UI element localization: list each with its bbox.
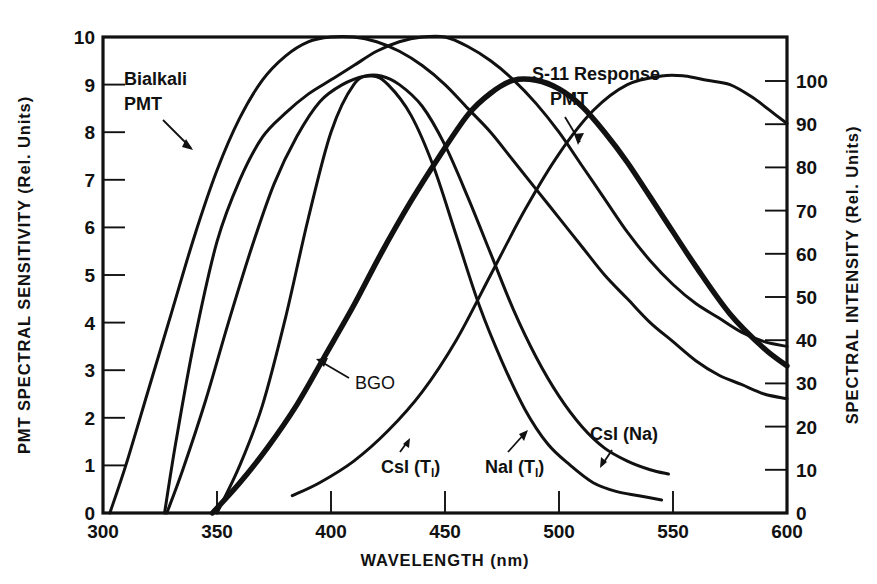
y-right-tick-label: 20 xyxy=(796,417,817,438)
x-tick-label: 550 xyxy=(657,521,689,542)
y-left-axis-title: PMT SPECTRAL SENSITIVITY (Rel. Units) xyxy=(15,96,33,454)
y-right-ticks xyxy=(765,81,787,513)
annotation-s11-pmt: S-11 Response PMT xyxy=(532,64,660,145)
annotation-s11-label-line2: PMT xyxy=(550,89,588,109)
x-tick-label: 600 xyxy=(771,521,803,542)
y-left-tick-label: 4 xyxy=(84,313,95,334)
annotation-bialkali-label-line1: Bialkali xyxy=(124,69,187,89)
annotation-csi-tl: CsI (Tl) xyxy=(381,438,440,480)
y-right-tick-label: 90 xyxy=(796,114,817,135)
y-left-tick-label: 7 xyxy=(84,170,95,191)
curves-group xyxy=(110,36,787,513)
y-left-tick-labels: 10 9 8 7 6 5 4 3 2 1 0 xyxy=(74,27,96,524)
annotation-s11-label-line1: S-11 Response xyxy=(532,64,660,84)
y-left-tick-label: 1 xyxy=(84,455,95,476)
curve-nai-tl xyxy=(217,76,662,513)
curve-csi-na xyxy=(167,75,669,513)
y-left-tick-label: 9 xyxy=(84,75,95,96)
annotation-csi-tl-label: CsI (Tl) xyxy=(381,457,440,480)
annotation-bgo: BGO xyxy=(316,358,395,393)
x-tick-label: 300 xyxy=(87,521,119,542)
y-left-tick-label: 3 xyxy=(84,360,95,381)
x-tick-label: 450 xyxy=(429,521,461,542)
x-axis-title: WAVELENGTH (nm) xyxy=(360,551,529,569)
y-right-tick-label: 80 xyxy=(796,157,817,178)
annotation-nai-tl-label: NaI (Tl) xyxy=(485,457,544,480)
y-right-tick-label: 50 xyxy=(796,287,817,308)
x-tick-label: 350 xyxy=(201,521,233,542)
x-tick-label: 500 xyxy=(543,521,575,542)
y-right-axis-title: SPECTRAL INTENSITY (Rel. Units) xyxy=(843,126,861,425)
plot-frame xyxy=(103,37,787,513)
y-left-tick-label: 2 xyxy=(84,408,95,429)
spectral-response-chart: 10 9 8 7 6 5 4 3 2 1 0 PMT SPECTRAL SENS… xyxy=(0,0,877,584)
y-right-tick-label: 40 xyxy=(796,330,817,351)
y-right-tick-label: 70 xyxy=(796,201,817,222)
y-left-tick-label: 6 xyxy=(84,217,95,238)
y-right-tick-labels: 100 90 80 70 60 50 40 30 20 10 0 xyxy=(796,71,828,524)
annotation-csi-na-label: CsI (Na) xyxy=(590,424,658,444)
y-left-tick-label: 5 xyxy=(84,265,95,286)
y-left-ticks xyxy=(103,37,125,513)
x-ticks xyxy=(103,491,787,513)
y-left-tick-label: 8 xyxy=(84,122,95,143)
y-left-tick-label: 10 xyxy=(74,27,95,48)
x-tick-labels: 300 350 400 450 500 550 600 xyxy=(87,521,803,542)
y-right-tick-label: 10 xyxy=(796,460,817,481)
y-right-tick-label: 60 xyxy=(796,244,817,265)
figure-container: 10 9 8 7 6 5 4 3 2 1 0 PMT SPECTRAL SENS… xyxy=(0,0,877,584)
annotation-bgo-label: BGO xyxy=(355,373,395,393)
annotation-s11-arrowhead xyxy=(574,133,584,145)
annotation-bialkali-label-line2: PMT xyxy=(124,94,162,114)
curve-bialkali-pmt xyxy=(110,36,787,513)
y-right-tick-label: 30 xyxy=(796,373,817,394)
annotation-bialkali-pmt: Bialkali PMT xyxy=(124,69,193,150)
y-right-tick-label: 100 xyxy=(796,71,828,92)
x-tick-label: 400 xyxy=(315,521,347,542)
annotation-nai-tl: NaI (Tl) xyxy=(485,430,544,480)
